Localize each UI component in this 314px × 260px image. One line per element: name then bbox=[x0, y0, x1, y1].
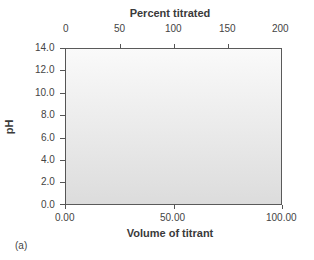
y-tick-label: 6.0 bbox=[41, 132, 55, 143]
x-tick-label: 100.00 bbox=[266, 212, 297, 223]
panel-label: (a) bbox=[15, 240, 27, 251]
y-tick-label: 2.0 bbox=[41, 176, 55, 187]
x-tick-mark bbox=[174, 205, 175, 209]
x-tick-mark bbox=[282, 205, 283, 209]
top-tick-label: 200 bbox=[272, 23, 289, 34]
y-tick-label: 14.0 bbox=[35, 42, 54, 53]
x-tick-label: 0.00 bbox=[55, 212, 74, 223]
y-tick-label: 12.0 bbox=[35, 64, 54, 75]
x-tick-mark bbox=[65, 205, 66, 209]
y-tick-label: 4.0 bbox=[41, 154, 55, 165]
top-tick-label: 50 bbox=[114, 23, 125, 34]
top-tick-label: 0 bbox=[63, 23, 69, 34]
x-tick-label: 50.00 bbox=[160, 212, 185, 223]
top-axis-label: Percent titrated bbox=[0, 7, 314, 19]
y-tick-label: 8.0 bbox=[41, 109, 55, 120]
plot-area bbox=[65, 48, 282, 205]
y-axis-label: pH bbox=[3, 120, 15, 135]
y-tick-label: 10.0 bbox=[35, 87, 54, 98]
x-axis-label: Volume of titrant bbox=[0, 227, 314, 239]
y-tick-label: 0.0 bbox=[41, 199, 55, 210]
top-tick-label: 100 bbox=[165, 23, 182, 34]
top-tick-label: 150 bbox=[219, 23, 236, 34]
